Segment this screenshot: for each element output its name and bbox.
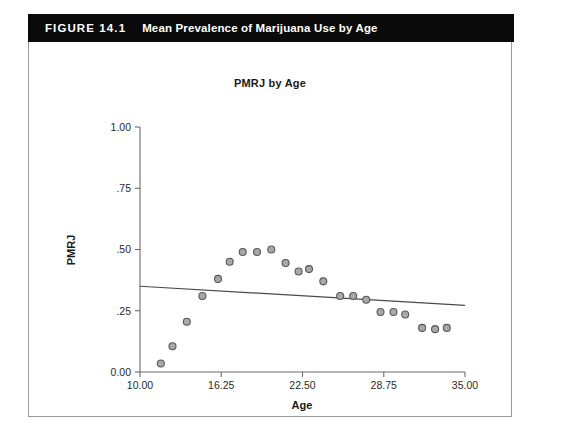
figure-header-bar: FIGURE 14.1 Mean Prevalence of Marijuana… [28, 14, 514, 42]
data-point [169, 343, 176, 350]
y-tick-label: .25 [116, 305, 131, 317]
data-point [254, 248, 261, 255]
data-point [282, 259, 289, 266]
data-point [377, 308, 384, 315]
data-point [320, 278, 327, 285]
data-point [215, 275, 222, 282]
x-tick-label: 35.00 [452, 379, 478, 391]
chart-plot-area: PMRJ by Age 0.00.25.50.751.00 10.0016.25… [29, 43, 511, 416]
data-point [350, 293, 357, 300]
data-point [295, 268, 302, 275]
data-point [199, 293, 206, 300]
figure-number-label: FIGURE 14.1 [45, 22, 126, 34]
data-point [306, 266, 313, 273]
data-point [239, 248, 246, 255]
y-axis-title: PMRJ [65, 235, 77, 266]
data-point [419, 324, 426, 331]
data-point [402, 311, 409, 318]
x-axis-title: Age [292, 399, 313, 411]
x-tick-label: 16.25 [208, 379, 234, 391]
x-tick-label: 22.50 [289, 379, 315, 391]
data-point [432, 326, 439, 333]
x-tick-label: 28.75 [371, 379, 397, 391]
fit-line [140, 286, 465, 305]
data-point [337, 293, 344, 300]
data-point [443, 324, 450, 331]
figure-caption: Mean Prevalence of Marijuana Use by Age [142, 22, 378, 34]
y-tick-label: .75 [116, 182, 131, 194]
data-points-group [157, 246, 450, 367]
data-point [363, 296, 370, 303]
data-point [268, 246, 275, 253]
x-axis-ticks: 10.0016.2522.5028.7535.00 [127, 372, 478, 391]
y-axis-ticks: 0.00.25.50.751.00 [111, 121, 140, 378]
y-tick-label: .50 [116, 243, 131, 255]
data-point [390, 308, 397, 315]
data-point [183, 318, 190, 325]
axes-group [140, 127, 465, 372]
data-point [157, 360, 164, 367]
x-tick-label: 10.00 [127, 379, 153, 391]
regression-line [140, 286, 465, 305]
data-point [226, 258, 233, 265]
figure-container: FIGURE 14.1 Mean Prevalence of Marijuana… [28, 14, 512, 417]
y-tick-label: 0.00 [111, 366, 132, 378]
scatter-plot-svg: 0.00.25.50.751.00 10.0016.2522.5028.7535… [29, 43, 511, 416]
y-tick-label: 1.00 [111, 121, 132, 133]
